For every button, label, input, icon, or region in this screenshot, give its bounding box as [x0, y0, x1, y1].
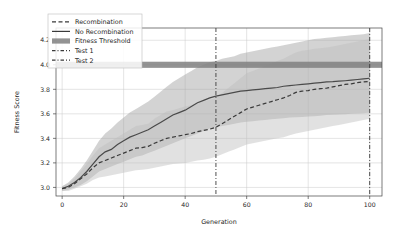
y-axis-title: Fitness Score	[13, 91, 21, 133]
legend-label-no-recombination: No Recombination	[75, 28, 134, 36]
chart-legend: RecombinationNo RecombinationFitness Thr…	[48, 14, 142, 68]
legend-label-recombination: Recombination	[75, 18, 123, 26]
y-tick-label: 3.2	[40, 159, 50, 166]
x-tick-label: 80	[304, 201, 312, 208]
x-tick-label: 0	[60, 201, 64, 208]
x-tick-label: 20	[120, 201, 128, 208]
x-tick-label: 100	[364, 201, 376, 208]
y-tick-label: 3.4	[40, 135, 50, 142]
x-axis-title: Generation	[201, 218, 237, 226]
y-tick-label: 3.6	[40, 110, 50, 117]
chart-canvas: 0204060801003.03.23.43.63.84.04.2 Genera…	[0, 0, 413, 233]
legend-label-fitness-threshold: Fitness Threshold	[75, 37, 131, 45]
legend-label-test-2: Test 2	[74, 57, 94, 65]
x-tick-label: 60	[243, 201, 251, 208]
fitness-score-chart: 0204060801003.03.23.43.63.84.04.2 Genera…	[0, 0, 413, 233]
y-tick-label: 3.0	[40, 184, 50, 191]
legend-swatch-fitness-threshold	[52, 38, 70, 43]
y-tick-label: 3.8	[40, 86, 50, 93]
x-tick-label: 40	[181, 201, 189, 208]
legend-label-test-1: Test 1	[74, 47, 94, 55]
